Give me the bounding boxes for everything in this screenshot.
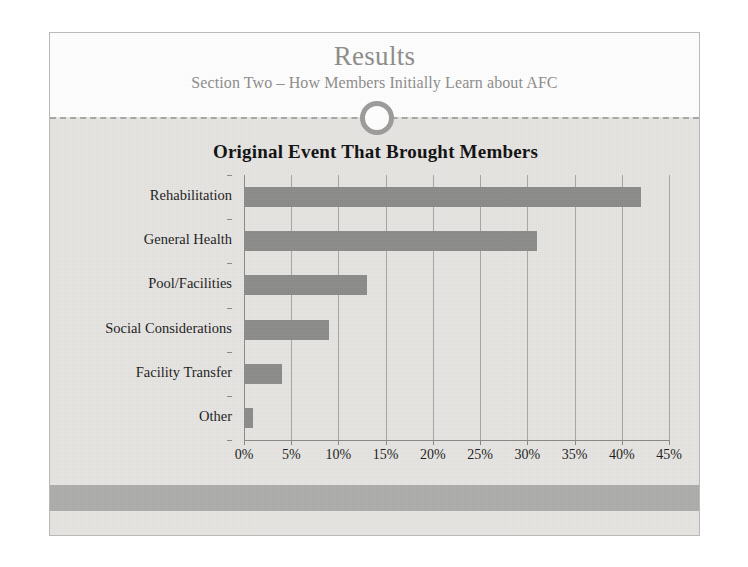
x-tick-mark: [244, 440, 245, 445]
x-axis-line: [244, 440, 669, 441]
y-tick-mark: [227, 352, 232, 353]
y-tick-mark: [227, 219, 232, 220]
bar-chart: Original Event That Brought Members Reha…: [50, 117, 700, 513]
bar: [244, 364, 282, 384]
category-label: General Health: [49, 231, 232, 248]
x-tick-mark: [386, 440, 387, 445]
bar: [244, 231, 537, 251]
category-label: Social Considerations: [49, 320, 232, 337]
x-tick-mark: [622, 440, 623, 445]
x-tick-label: 25%: [455, 447, 505, 463]
x-tick-mark: [527, 440, 528, 445]
x-tick-label: 30%: [502, 447, 552, 463]
gridline-25: [480, 175, 481, 440]
category-label: Rehabilitation: [49, 187, 232, 204]
gridline-20: [433, 175, 434, 440]
gridline-15: [386, 175, 387, 440]
slide-subtitle: Section Two – How Members Initially Lear…: [50, 72, 699, 92]
x-tick-label: 45%: [644, 447, 694, 463]
y-tick-mark: [227, 308, 232, 309]
x-tick-mark: [575, 440, 576, 445]
y-tick-mark: [227, 263, 232, 264]
gridline-35: [575, 175, 576, 440]
gridline-30: [527, 175, 528, 440]
x-tick-mark: [669, 440, 670, 445]
x-tick-mark: [480, 440, 481, 445]
x-tick-mark: [433, 440, 434, 445]
x-tick-label: 40%: [597, 447, 647, 463]
category-label: Facility Transfer: [49, 364, 232, 381]
x-tick-mark: [338, 440, 339, 445]
x-tick-label: 10%: [313, 447, 363, 463]
plot-area: RehabilitationGeneral HealthPool/Facilit…: [244, 175, 669, 440]
presentation-slide: Results Section Two – How Members Initia…: [49, 32, 700, 536]
gridline-5: [291, 175, 292, 440]
category-label: Pool/Facilities: [49, 275, 232, 292]
gridline-45: [669, 175, 670, 440]
category-label: Other: [49, 408, 232, 425]
x-tick-mark: [291, 440, 292, 445]
bar: [244, 408, 253, 428]
x-tick-label: 5%: [266, 447, 316, 463]
x-tick-label: 35%: [550, 447, 600, 463]
page-title: Results: [50, 33, 699, 72]
y-tick-mark: [227, 396, 232, 397]
bar: [244, 187, 641, 207]
chart-title: Original Event That Brought Members: [50, 141, 700, 163]
x-tick-label: 20%: [408, 447, 458, 463]
gridline-0: [244, 175, 245, 440]
y-tick-mark: [227, 175, 232, 176]
gridline-10: [338, 175, 339, 440]
y-tick-mark: [227, 440, 232, 441]
x-tick-label: 0%: [219, 447, 269, 463]
bar: [244, 275, 367, 295]
bar: [244, 320, 329, 340]
gridline-40: [622, 175, 623, 440]
x-tick-label: 15%: [361, 447, 411, 463]
